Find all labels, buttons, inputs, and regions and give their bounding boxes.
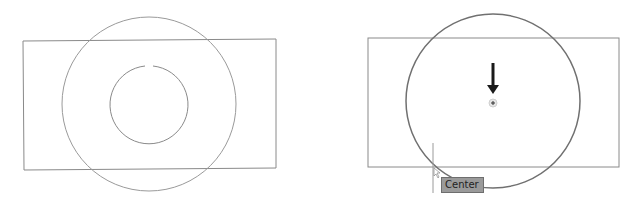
left-rectangle	[23, 39, 276, 170]
left-outer-circle	[62, 17, 236, 191]
right-panel	[368, 14, 619, 193]
snap-tooltip: Center	[441, 177, 484, 193]
center-snap-marker-icon[interactable]	[489, 99, 497, 107]
snap-tooltip-label: Center	[445, 179, 479, 190]
left-inner-circle	[110, 66, 188, 144]
left-panel	[23, 17, 276, 191]
drawing-canvas	[0, 0, 642, 211]
arrow-down-icon	[487, 63, 499, 94]
